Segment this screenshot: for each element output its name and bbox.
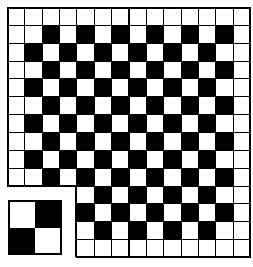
grid-cell bbox=[59, 43, 77, 62]
grid-cell bbox=[24, 132, 42, 151]
grid-cell bbox=[163, 132, 181, 151]
grid-cell bbox=[181, 25, 199, 44]
grid-cell bbox=[215, 43, 233, 62]
grid-cell bbox=[94, 7, 112, 26]
grid-cell bbox=[215, 114, 233, 133]
grid-cell bbox=[146, 203, 164, 222]
grid-cell bbox=[7, 114, 25, 133]
tile-cell bbox=[10, 202, 35, 228]
grid-cell bbox=[111, 132, 129, 151]
grid-cell bbox=[111, 61, 129, 80]
grid-cell bbox=[129, 25, 147, 44]
grid-cell bbox=[198, 43, 216, 62]
grid-cell bbox=[111, 186, 129, 205]
grid-cell bbox=[198, 168, 216, 187]
grid-cell bbox=[59, 25, 77, 44]
grid-cell bbox=[215, 150, 233, 169]
grid-cell bbox=[146, 186, 164, 205]
grid-cell bbox=[181, 114, 199, 133]
grid-cell bbox=[24, 7, 42, 26]
grid-cell bbox=[129, 43, 147, 62]
grid-cell bbox=[198, 78, 216, 97]
grid-cell bbox=[59, 78, 77, 97]
grid-cell bbox=[163, 43, 181, 62]
grid-cell bbox=[94, 186, 112, 205]
grid-cell bbox=[146, 114, 164, 133]
grid-cell bbox=[129, 203, 147, 222]
grid-cell bbox=[76, 61, 94, 80]
grid-cell bbox=[111, 221, 129, 240]
grid-cell bbox=[215, 132, 233, 151]
grid-cell bbox=[94, 132, 112, 151]
grid-cell bbox=[76, 186, 94, 205]
grid-cell bbox=[24, 61, 42, 80]
grid-cell bbox=[24, 114, 42, 133]
grid-cell bbox=[76, 132, 94, 151]
grid-cell bbox=[198, 61, 216, 80]
grid-cell bbox=[181, 7, 199, 26]
grid-cell bbox=[163, 221, 181, 240]
grid-cell bbox=[24, 25, 42, 44]
grid-cell bbox=[181, 132, 199, 151]
grid-cell bbox=[76, 203, 94, 222]
grid-cell bbox=[163, 114, 181, 133]
grid-cell bbox=[76, 96, 94, 115]
grid-cell bbox=[76, 114, 94, 133]
grid-cell bbox=[163, 150, 181, 169]
grid-cell bbox=[146, 221, 164, 240]
grid-cell bbox=[59, 96, 77, 115]
grid-cell bbox=[163, 168, 181, 187]
grid-cell bbox=[59, 61, 77, 80]
grid-cell bbox=[7, 7, 25, 26]
grid-cell bbox=[94, 25, 112, 44]
grid-cell bbox=[111, 78, 129, 97]
grid-cell bbox=[24, 78, 42, 97]
grid-cell bbox=[163, 203, 181, 222]
grid-cell bbox=[94, 78, 112, 97]
grid-cell bbox=[94, 150, 112, 169]
grid-cell bbox=[146, 168, 164, 187]
grid-cell bbox=[24, 96, 42, 115]
grid-cell bbox=[94, 114, 112, 133]
grid-cell bbox=[94, 221, 112, 240]
grid-cell bbox=[163, 7, 181, 26]
grid-cell bbox=[59, 7, 77, 26]
grid-cell bbox=[59, 132, 77, 151]
grid-cell bbox=[146, 61, 164, 80]
grid-cell bbox=[181, 43, 199, 62]
grid-cell bbox=[94, 96, 112, 115]
grid-cell bbox=[94, 61, 112, 80]
grid-cell bbox=[111, 114, 129, 133]
grid-cell bbox=[129, 96, 147, 115]
grid-cell bbox=[215, 203, 233, 222]
grid-cell bbox=[163, 186, 181, 205]
grid-cell bbox=[7, 43, 25, 62]
grid-cell bbox=[59, 114, 77, 133]
grid-cell bbox=[163, 25, 181, 44]
grid-cell bbox=[146, 96, 164, 115]
grid-cell bbox=[181, 168, 199, 187]
grid-cell bbox=[198, 25, 216, 44]
grid-cell bbox=[129, 132, 147, 151]
grid-cell bbox=[198, 96, 216, 115]
grid-cell bbox=[42, 96, 60, 115]
grid-cell bbox=[129, 78, 147, 97]
grid-cell bbox=[76, 25, 94, 44]
grid-cell bbox=[76, 168, 94, 187]
grid-cell bbox=[163, 96, 181, 115]
grid-cell bbox=[146, 78, 164, 97]
grid-cell bbox=[42, 43, 60, 62]
grid-cell bbox=[94, 168, 112, 187]
grid-cell bbox=[129, 150, 147, 169]
grid-cell bbox=[42, 7, 60, 26]
grid-cell bbox=[198, 221, 216, 240]
grid-cell bbox=[7, 150, 25, 169]
grid-cell bbox=[76, 150, 94, 169]
grid-cell bbox=[24, 43, 42, 62]
grid-cell bbox=[129, 61, 147, 80]
grid-cell bbox=[163, 61, 181, 80]
grid-cell bbox=[111, 25, 129, 44]
grid-cell bbox=[215, 7, 233, 26]
grid-cell bbox=[198, 114, 216, 133]
grid-cell bbox=[198, 186, 216, 205]
